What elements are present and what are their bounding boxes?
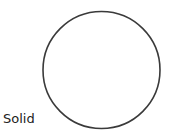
line-style-label: Solid xyxy=(3,111,35,127)
solid-circle-shape xyxy=(43,12,160,129)
